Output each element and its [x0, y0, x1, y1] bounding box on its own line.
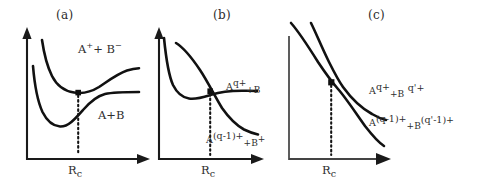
panel-a-rc-symbol: R	[68, 163, 77, 177]
panel-a-y-axis-arrowhead	[22, 27, 31, 39]
panel-b-plot	[150, 0, 300, 194]
panel-a-x-axis-arrowhead	[137, 154, 150, 164]
potential-curve-figure: (a) A++ B− A+B Rc (b)	[0, 0, 501, 194]
panel-a: (a) A++ B− A+B Rc	[0, 0, 160, 194]
panel-c: (c) Aq++B q'+ A(q-1)++B(q'-1)+ Rc	[285, 0, 501, 194]
panel-b-ct-label-tail-charge: +	[258, 134, 266, 144]
panel-a-rc-subscript: c	[77, 168, 82, 179]
panel-c-initial-label-mid-charge: q'+	[408, 82, 425, 93]
panel-c-charge-transfer-channel-label: A(q-1)++B(q'-1)+	[369, 117, 454, 129]
panel-b-rc-subscript: c	[210, 168, 215, 179]
panel-b-ct-label-A: A	[206, 134, 213, 145]
panel-c-rc-symbol: R	[322, 163, 331, 177]
panel-b-initial-label-A: A	[226, 81, 233, 92]
panel-b-initial-label-tail: +B	[246, 85, 260, 95]
panel-c-ct-label-charge: (q-1)+	[376, 113, 407, 124]
panel-a-ionic-label-plus: +	[93, 42, 103, 56]
panel-c-initial-label-mid: +B	[390, 89, 404, 99]
panel-c-curve-two	[311, 23, 386, 120]
panel-b-initial-label-charge: q+	[233, 78, 246, 88]
panel-b-ct-label-tail: +B	[244, 138, 258, 148]
panel-c-initial-channel-label: Aq++B q'+	[369, 85, 424, 97]
panel-c-initial-label-A: A	[369, 85, 376, 96]
panel-c-rc-label: Rc	[322, 163, 336, 179]
panel-b-y-axis-arrowhead	[154, 27, 163, 39]
panel-b-ct-label-charge: (q-1)+	[213, 130, 244, 141]
panel-a-ionic-label-B-charge: −	[115, 40, 122, 50]
panel-c-ct-label-mid: +B	[407, 121, 421, 131]
panel-c-initial-label-charge: q+	[376, 81, 390, 92]
panel-c-ct-label-A: A	[369, 117, 376, 128]
panel-a-ionic-channel-label: A++ B−	[78, 44, 122, 56]
panel-b-x-axis-arrowhead	[251, 154, 264, 164]
panel-a-rc-label: Rc	[68, 163, 82, 179]
panel-b-charge-transfer-channel-label: A(q-1)++B+	[206, 134, 265, 146]
panel-a-ionic-label-B: B	[106, 42, 114, 56]
panel-b: (b) Aq++B A(q-1)++B+ Rc	[150, 0, 300, 194]
panel-b-rc-label: Rc	[201, 163, 215, 179]
panel-a-neutral-channel-label: A+B	[98, 110, 124, 122]
panel-b-initial-channel-label: Aq++B	[226, 81, 260, 93]
panel-c-ct-label-mid-charge: (q'-1)+	[421, 114, 454, 125]
panel-c-x-axis-arrowhead	[376, 153, 391, 165]
panel-b-rc-symbol: R	[201, 163, 210, 177]
panel-c-rc-subscript: c	[331, 168, 336, 179]
